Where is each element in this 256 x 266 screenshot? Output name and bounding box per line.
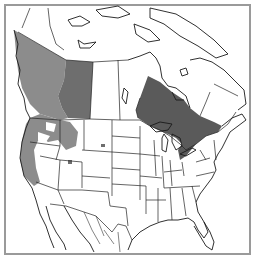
range-map (0, 0, 256, 266)
range-patch-dakota (101, 144, 105, 147)
